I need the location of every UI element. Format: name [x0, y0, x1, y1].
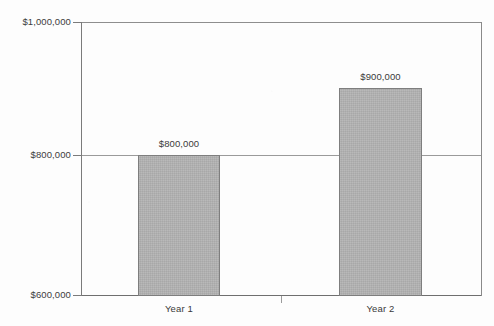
- x-axis-category-label-year-1: Year 1: [138, 303, 220, 314]
- y-tick-mark-800000: [73, 155, 81, 156]
- y-axis-tick-label-1000000: $1,000,000: [1, 16, 71, 27]
- y-tick-mark-600000: [73, 295, 81, 296]
- plot-right-border: [481, 22, 482, 296]
- bar-value-label-year-1: $800,000: [138, 138, 220, 149]
- y-axis-line: [81, 22, 82, 296]
- bar-value-label-year-2: $900,000: [339, 71, 422, 82]
- bar-year-1: [138, 155, 220, 296]
- bar-chart: $1,000,000 $800,000 $600,000 $800,000 $9…: [0, 0, 494, 326]
- gridline-1000000: [81, 22, 482, 23]
- y-axis-tick-label-600000: $600,000: [1, 289, 71, 300]
- bar-year-2: [339, 88, 422, 296]
- y-tick-mark-1000000: [73, 22, 81, 23]
- y-axis-tick-label-800000: $800,000: [1, 149, 71, 160]
- x-axis-category-label-year-2: Year 2: [339, 303, 422, 314]
- x-tick-mark-category-boundary: [281, 296, 282, 303]
